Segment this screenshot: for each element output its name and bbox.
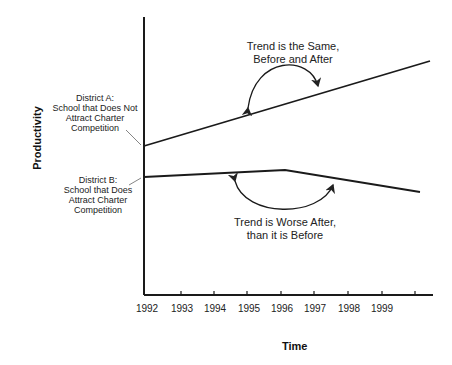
- x-tick-label: 1997: [304, 303, 326, 314]
- district-b-label-line: Competition: [58, 205, 138, 215]
- district-a-label-line: Competition: [50, 123, 140, 133]
- bottom-curved-arrow: [235, 181, 333, 209]
- x-tick-label: 1996: [271, 303, 293, 314]
- x-tick-label: 1995: [238, 303, 260, 314]
- top-curved-arrow: [248, 65, 318, 108]
- district-a-line: [144, 61, 430, 146]
- district-b-line: [144, 170, 420, 192]
- annotation-top-line: Before and After: [233, 53, 353, 66]
- district-b-label-line: School that Does: [58, 185, 138, 195]
- x-tick-label: 1994: [204, 303, 226, 314]
- x-axis-title: Time: [282, 340, 307, 352]
- annotation-bottom: Trend is Worse After, than it is Before: [225, 216, 345, 242]
- annotation-top-line: Trend is the Same,: [233, 40, 353, 53]
- annotation-bottom-line: than it is Before: [225, 229, 345, 242]
- x-tick-label: 1998: [338, 303, 360, 314]
- district-a-label-line: Attract Charter: [50, 113, 140, 123]
- x-tick-label: 1999: [371, 303, 393, 314]
- district-b-label: District B: School that Does Attract Cha…: [58, 175, 138, 215]
- district-b-label-line: Attract Charter: [58, 195, 138, 205]
- x-tick-label: 1992: [136, 303, 158, 314]
- district-b-label-line: District B:: [58, 175, 138, 185]
- district-a-label: District A: School that Does Not Attract…: [50, 93, 140, 133]
- district-a-label-line: School that Does Not: [50, 103, 140, 113]
- x-tick-label: 1993: [171, 303, 193, 314]
- y-axis-title: Productivity: [31, 98, 43, 178]
- annotation-top: Trend is the Same, Before and After: [233, 40, 353, 66]
- annotation-bottom-line: Trend is Worse After,: [225, 216, 345, 229]
- district-a-label-line: District A:: [50, 93, 140, 103]
